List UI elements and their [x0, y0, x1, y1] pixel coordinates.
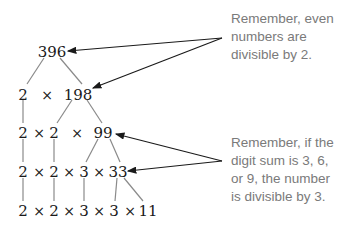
- factor: 11: [138, 202, 157, 220]
- note-line: numbers are: [231, 28, 334, 46]
- factor: 2: [18, 163, 28, 181]
- note-line: is divisible by 3.: [231, 188, 334, 206]
- arrow-icon: [116, 134, 222, 161]
- factor: 3: [79, 202, 89, 220]
- factor: 2: [49, 163, 59, 181]
- arrow-icon: [93, 38, 222, 88]
- tree-row-3: 2 × 2 × 3 × 33: [18, 163, 127, 181]
- note-line: divisible by 2.: [231, 46, 334, 64]
- tree-row-2: 2 × 2 × 99: [18, 124, 112, 142]
- note-divisible-by-3: Remember, if the digit sum is 3, 6, or 9…: [231, 134, 334, 206]
- times-sign: ×: [124, 203, 136, 219]
- factor: 99: [93, 124, 112, 142]
- arrow-icon: [68, 38, 222, 51]
- times-sign: ×: [33, 125, 45, 141]
- note-divisible-by-2: Remember, even numbers are divisible by …: [231, 10, 334, 64]
- tree-row-4: 2 × 2 × 3 × 3 × 11: [18, 202, 157, 220]
- times-sign: ×: [33, 164, 45, 180]
- factor: 2: [18, 124, 28, 142]
- times-sign: ×: [71, 125, 83, 141]
- arrow-icon: [128, 161, 222, 171]
- factor: 2: [18, 86, 28, 104]
- times-sign: ×: [63, 164, 75, 180]
- times-sign: ×: [93, 203, 105, 219]
- times-sign: ×: [93, 164, 105, 180]
- times-sign: ×: [41, 87, 53, 103]
- note-line: or 9, the number: [231, 170, 334, 188]
- note-line: Remember, if the: [231, 134, 334, 152]
- factor: 3: [79, 163, 89, 181]
- tree-row-1: 2 × 198: [18, 86, 92, 104]
- note-line: digit sum is 3, 6,: [231, 152, 334, 170]
- factor: 2: [18, 202, 28, 220]
- note-line: Remember, even: [231, 10, 334, 28]
- tree-root: 396: [38, 43, 67, 61]
- factor: 2: [49, 124, 59, 142]
- times-sign: ×: [63, 203, 75, 219]
- factor: 198: [64, 86, 93, 104]
- factor: 3: [109, 202, 119, 220]
- factor: 2: [49, 202, 59, 220]
- factor: 33: [108, 163, 127, 181]
- times-sign: ×: [33, 203, 45, 219]
